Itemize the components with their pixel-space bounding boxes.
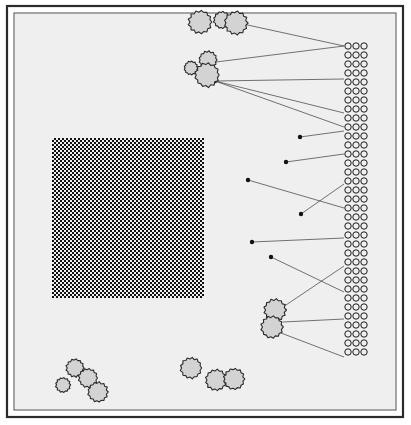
leader-6-endpoint-dot [298, 135, 302, 139]
figure-root: Schematic plan figure with stippled regi… [0, 0, 411, 425]
leader-9-endpoint-dot [299, 212, 303, 216]
dotted-square [52, 138, 204, 298]
leader-10-endpoint-dot [250, 240, 254, 244]
leader-8-endpoint-dot [246, 178, 250, 182]
leader-7-endpoint-dot [284, 160, 288, 164]
figure-canvas [0, 0, 411, 425]
leader-11-endpoint-dot [269, 255, 273, 259]
